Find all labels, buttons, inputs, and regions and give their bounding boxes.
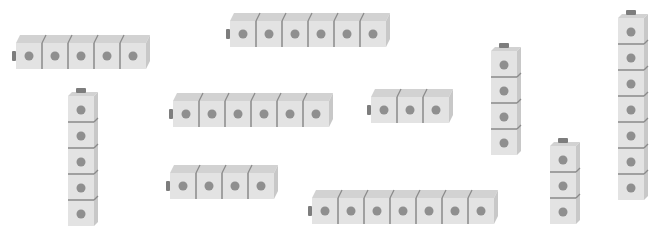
cube	[334, 21, 360, 47]
cube	[277, 101, 303, 127]
dot-icon	[432, 106, 441, 115]
cube	[618, 44, 644, 70]
cube	[491, 103, 517, 129]
dot-icon	[627, 158, 636, 167]
cube	[550, 198, 576, 224]
cube	[416, 198, 442, 224]
cube	[308, 21, 334, 47]
dot-icon	[77, 184, 86, 193]
dot-icon	[406, 106, 415, 115]
dot-icon	[627, 132, 636, 141]
dot-icon	[627, 184, 636, 193]
dot-icon	[500, 61, 509, 70]
cube	[423, 97, 449, 123]
cube	[68, 200, 94, 226]
cube	[248, 173, 274, 199]
cube	[303, 101, 329, 127]
cube	[364, 198, 390, 224]
connector-knob-icon	[226, 29, 230, 39]
dot-icon	[77, 106, 86, 115]
cube	[618, 70, 644, 96]
cube	[225, 101, 251, 127]
dot-icon	[77, 132, 86, 141]
cube	[199, 101, 225, 127]
dot-icon	[627, 54, 636, 63]
cube	[16, 43, 42, 69]
dot-icon	[231, 182, 240, 191]
dot-icon	[451, 207, 460, 216]
dot-icon	[559, 156, 568, 165]
cube	[618, 148, 644, 174]
dot-icon	[265, 30, 274, 39]
cube	[491, 77, 517, 103]
cube-train-9	[550, 138, 584, 224]
cube	[251, 101, 277, 127]
dot-icon	[257, 182, 266, 191]
cube	[170, 173, 196, 199]
connector-knob-icon	[367, 105, 371, 115]
cube	[618, 18, 644, 44]
cube-train-8	[312, 190, 502, 224]
cube	[230, 21, 256, 47]
cube-train-4	[173, 93, 337, 127]
cube	[618, 96, 644, 122]
cube	[282, 21, 308, 47]
cube-train-7	[170, 165, 282, 199]
dot-icon	[347, 207, 356, 216]
cube	[68, 174, 94, 200]
connector-knob-icon	[12, 51, 16, 61]
dot-icon	[627, 28, 636, 37]
dot-icon	[234, 110, 243, 119]
dot-icon	[260, 110, 269, 119]
cube	[618, 174, 644, 200]
cube-train-10	[618, 10, 652, 200]
cube	[360, 21, 386, 47]
dot-icon	[286, 110, 295, 119]
dot-icon	[312, 110, 321, 119]
dot-icon	[129, 52, 138, 61]
dot-icon	[51, 52, 60, 61]
cube	[550, 172, 576, 198]
dot-icon	[103, 52, 112, 61]
dot-icon	[477, 207, 486, 216]
cube	[468, 198, 494, 224]
dot-icon	[208, 110, 217, 119]
connector-knob-icon	[169, 109, 173, 119]
cube	[338, 198, 364, 224]
dot-icon	[25, 52, 34, 61]
dot-icon	[291, 30, 300, 39]
connector-knob-icon	[308, 206, 312, 216]
cube	[390, 198, 416, 224]
dot-icon	[500, 139, 509, 148]
dot-icon	[182, 110, 191, 119]
cube	[618, 122, 644, 148]
dot-icon	[369, 30, 378, 39]
dot-icon	[627, 80, 636, 89]
cube	[120, 43, 146, 69]
cube-train-2	[230, 13, 394, 47]
cube	[68, 122, 94, 148]
cube	[68, 96, 94, 122]
dot-icon	[559, 208, 568, 217]
dot-icon	[77, 158, 86, 167]
dot-icon	[627, 106, 636, 115]
dot-icon	[317, 30, 326, 39]
dot-icon	[205, 182, 214, 191]
cube-train-3	[68, 88, 102, 226]
connector-knob-icon	[166, 181, 170, 191]
cube	[196, 173, 222, 199]
dot-icon	[559, 182, 568, 191]
cube	[397, 97, 423, 123]
dot-icon	[380, 106, 389, 115]
dot-icon	[77, 210, 86, 219]
dot-icon	[321, 207, 330, 216]
dot-icon	[77, 52, 86, 61]
connector-knob-icon	[558, 138, 568, 143]
connector-knob-icon	[499, 43, 509, 48]
dot-icon	[373, 207, 382, 216]
dot-icon	[179, 182, 188, 191]
cube	[491, 51, 517, 77]
cube	[94, 43, 120, 69]
cube	[312, 198, 338, 224]
cube-train-5	[371, 89, 457, 123]
